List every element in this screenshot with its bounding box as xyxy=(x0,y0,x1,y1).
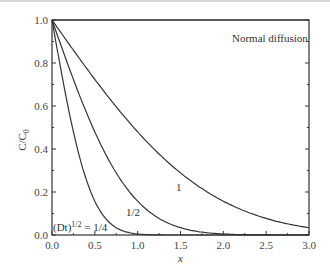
x-tick-label: 3.0 xyxy=(302,239,316,251)
x-axis-label: x xyxy=(177,252,183,264)
x-tick-label: 2.5 xyxy=(259,239,273,251)
y-tick-label: 0.4 xyxy=(34,143,48,155)
y-tick-label: 0.2 xyxy=(34,186,48,198)
x-tick-label: 1.5 xyxy=(174,239,188,251)
chart-annotation: Normal diffusion xyxy=(232,32,308,44)
x-tick-label: 0.5 xyxy=(88,239,102,251)
curve-(Dt)^1/2 = 1/4 xyxy=(52,20,309,235)
curve-1/2 xyxy=(52,20,309,235)
diffusion-chart: 0.00.51.01.52.02.53.00.00.20.40.60.81.0 … xyxy=(0,0,330,275)
curve-label-half: 1/2 xyxy=(126,206,140,218)
x-tick-label: 1.0 xyxy=(131,239,145,251)
y-tick-label: 1.0 xyxy=(34,14,48,26)
y-tick-label: 0.0 xyxy=(34,229,48,241)
y-tick-label: 0.6 xyxy=(34,100,48,112)
curve-label-1: 1 xyxy=(176,181,182,193)
plot-frame xyxy=(52,20,309,235)
curve-label-quarter: (Dt)1/2 = 1/4 xyxy=(53,220,108,234)
x-tick-label: 2.0 xyxy=(216,239,230,251)
axes: 0.00.51.01.52.02.53.00.00.20.40.60.81.0 xyxy=(34,14,316,251)
curve-1 xyxy=(52,20,309,228)
y-axis-label: C/C0 xyxy=(16,129,31,151)
y-tick-label: 0.8 xyxy=(34,57,48,69)
curves xyxy=(52,20,309,235)
